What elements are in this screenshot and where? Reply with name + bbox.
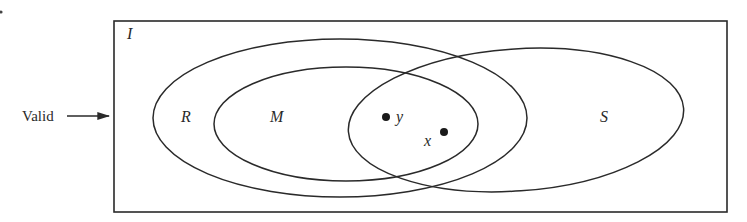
set-r-label: R [180, 108, 191, 125]
point-y-label: y [394, 108, 404, 126]
point-x-label: x [423, 132, 431, 149]
universe-label: I [126, 25, 133, 42]
set-m-label: M [269, 108, 285, 125]
point-y-dot [382, 113, 390, 121]
venn-diagram: I Valid R M S y x [0, 0, 747, 222]
set-s-label: S [600, 108, 608, 125]
stray-mark [0, 10, 3, 13]
point-x-dot [440, 128, 448, 136]
valid-label: Valid [22, 108, 54, 124]
set-m-ellipse [214, 67, 478, 181]
set-r-ellipse [153, 39, 527, 197]
